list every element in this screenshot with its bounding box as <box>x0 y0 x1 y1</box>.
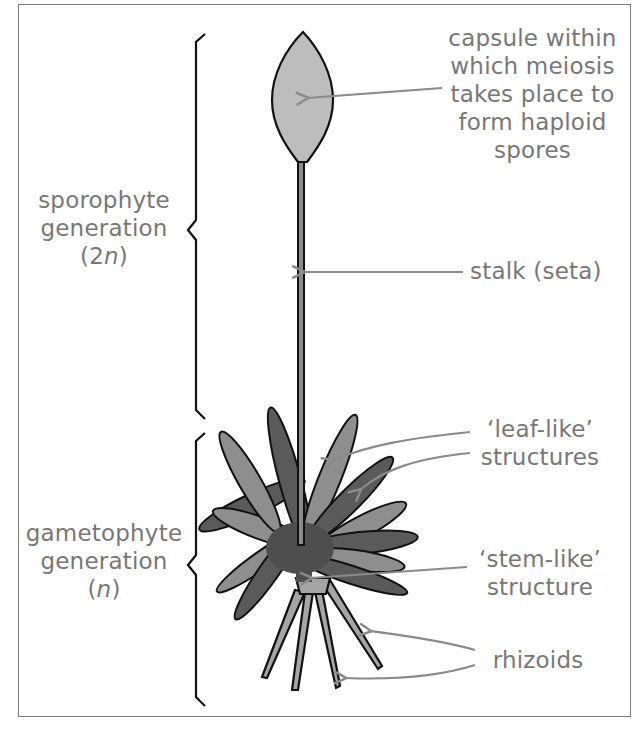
rhizoid-arrow-1 <box>370 631 475 650</box>
gametophyte-brace <box>188 433 205 706</box>
gametophyte-line2: generation <box>22 547 186 575</box>
stalk-seta <box>298 160 304 545</box>
rhizoids <box>262 578 382 690</box>
stem-like-structure <box>296 540 312 582</box>
gametophyte-generation-label: gametophyte generation (n) <box>22 519 186 603</box>
stem-like-label: ‘stem-like’ structure <box>470 545 610 601</box>
sporophyte-line2: generation <box>24 214 184 242</box>
sporophyte-line1: sporophyte <box>24 186 184 214</box>
sporophyte-ploidy: (2n) <box>24 242 184 270</box>
sporophyte-generation-label: sporophyte generation (2n) <box>24 186 184 270</box>
rhizoid-arrow-2 <box>345 665 475 678</box>
sporophyte-brace <box>188 34 205 419</box>
gametophyte-line1: gametophyte <box>22 519 186 547</box>
capsule-label: capsule within which meiosis takes place… <box>440 24 625 164</box>
rhizoids-label: rhizoids <box>483 646 593 674</box>
stalk-label: stalk (seta) <box>470 257 620 285</box>
gametophyte-ploidy: (n) <box>22 575 186 603</box>
leaf-like-label: ‘leaf-like’ structures <box>470 415 610 471</box>
